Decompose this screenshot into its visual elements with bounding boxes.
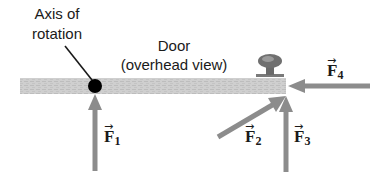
door-force-diagram: Axis of rotation Door (overhead view) →F…	[0, 0, 382, 188]
force-label-f3: →F3	[294, 128, 310, 147]
force-arrow-f4	[288, 79, 370, 93]
axis-label-line1: Axis of	[22, 5, 92, 22]
pivot-point	[88, 79, 102, 93]
door-label-line1: Door	[104, 37, 244, 54]
door-label: Door (overhead view)	[104, 37, 244, 73]
door-knob-icon	[256, 54, 284, 77]
force-label-f1: →F1	[104, 128, 120, 147]
force-arrow-f1	[88, 94, 102, 171]
door-label-line2: (overhead view)	[104, 56, 244, 73]
door-bar	[20, 78, 286, 94]
vector-arrow-icon: →	[104, 121, 113, 132]
axis-label-line2: rotation	[22, 25, 92, 42]
axis-of-rotation-label: Axis of rotation	[22, 5, 92, 42]
vector-arrow-icon: →	[245, 121, 254, 132]
force-label-f4: →F4	[327, 62, 343, 81]
force-arrow-f3	[279, 96, 293, 172]
vector-arrow-icon: →	[327, 55, 336, 66]
axis-pointer-line	[65, 46, 92, 80]
vector-arrow-icon: →	[294, 121, 303, 132]
force-label-f2: →F2	[245, 128, 261, 147]
